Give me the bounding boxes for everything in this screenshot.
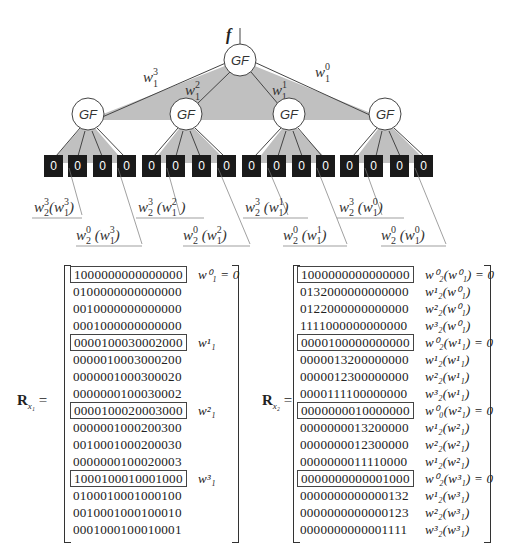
leaf-value: 0 [172, 159, 179, 173]
matrix-row: 0001000000000000 [70, 317, 185, 334]
gf-node-label: GF [177, 107, 196, 122]
matrix-row: 0000013200000000w¹₂(w¹₁) [297, 351, 412, 368]
edge-label-w1-3: w31 [143, 66, 158, 89]
row-bits: 0000000013200000 [297, 419, 412, 436]
matrix-x2-label: Rx₂ = [262, 392, 292, 411]
row-bits: 0000100020003000 [70, 402, 187, 419]
leaf-value: 0 [273, 159, 280, 173]
row-bits: 0000000100030002 [70, 385, 185, 402]
matrix-row: 0000000012300000w²₂(w²₁) [297, 436, 412, 453]
row-bits: 0000100000000000 [297, 334, 414, 351]
row-annotation: w²₂(w¹₁) [425, 368, 469, 385]
matrix-row: 0100000000000000 [70, 283, 185, 300]
row-annotation: w¹₁ [198, 334, 216, 351]
matrix-row: 0010000000000000 [70, 300, 185, 317]
matrix-row: 0000000000000123w²₂(w³₁) [297, 504, 412, 521]
leaf-value: 0 [99, 159, 106, 173]
row-bits: 0000100030002000 [70, 334, 187, 351]
matrix-row: 0000000010000000w⁰₀(w²₁) = 0 [297, 402, 414, 419]
matrix-row: 0000100000000000w⁰₂(w¹₁) = 0 [297, 334, 414, 351]
matrix-x2-subscript: x₂ [273, 401, 280, 411]
leaf-value: 0 [248, 159, 255, 173]
annotation-w2-3-w1-2: w32 (w21 ) [138, 196, 186, 218]
annotation-w2-0-w1-0: w02 (w01) [381, 224, 425, 246]
row-annotation: w²₁ [198, 402, 216, 419]
matrix-row: 0000000100030002 [70, 385, 185, 402]
matrix-row: 1111000000000000w³₂(w⁰₁) [297, 317, 410, 334]
matrix-x1-symbol: R [17, 392, 28, 408]
matrix-row: 0000000000001000w⁰₂(w³₁) = 0 [297, 470, 414, 487]
row-bits: 0000012300000000 [297, 368, 412, 385]
row-annotation: w¹₂(w³₁) [425, 487, 469, 504]
row-bits: 0000000100020003 [70, 453, 185, 470]
matrix-row: 0000000100020003 [70, 453, 185, 470]
row-annotation: w³₂(w¹₁) [425, 385, 469, 402]
row-bits: 0000000000000132 [297, 487, 412, 504]
row-annotation: w³₁ [198, 470, 216, 487]
matrix-row: 0122000000000000w²₂(w⁰₁) [297, 300, 412, 317]
row-bits: 0000013200000000 [297, 351, 412, 368]
row-annotation: w¹₂(w⁰₁) [425, 283, 471, 300]
row-bits: 0000000010000000 [297, 402, 414, 419]
matrix-row: 0010001000100010 [70, 504, 185, 521]
root-gf-label: GF [231, 53, 250, 68]
matrix-row: 0000001000300020 [70, 368, 185, 385]
leaf-value: 0 [396, 159, 403, 173]
matrix-row: 0000000000000132w¹₂(w³₁) [297, 487, 412, 504]
row-bits: 1000100010001000 [70, 470, 187, 487]
leaf-value: 0 [50, 159, 57, 173]
leaf-row: 0 0 0 0 0 0 0 0 0 0 0 0 0 0 0 0 [44, 155, 433, 177]
wavelet-tree-diagram: f w31 w21 w11 w01 GF GF GF GF GF 0 0 0 0… [0, 0, 514, 255]
matrix-row: 0000100030002000w¹₁ [70, 334, 187, 351]
matrix-row: 1000000000000000w⁰₂(w⁰₁) = 0 [297, 266, 414, 283]
matrix-x1-right-bracket [232, 265, 239, 543]
row-bits: 0000000000000123 [297, 504, 412, 521]
row-bits: 0000000000001111 [297, 521, 410, 538]
annotation-w2-0-w1-1: w02 (w11) [283, 224, 326, 246]
row-bits: 0000000000001000 [297, 470, 414, 487]
row-annotation: w²₂(w⁰₁) [425, 300, 471, 317]
leaf-value: 0 [420, 159, 427, 173]
gf-node-label: GF [376, 107, 395, 122]
row-annotation: w²₂(w³₁) [425, 504, 469, 521]
row-bits: 0000000012300000 [297, 436, 412, 453]
matrix-row: 0000012300000000w²₂(w¹₁) [297, 368, 412, 385]
matrix-x2-symbol: R [262, 392, 273, 408]
leaf-value: 0 [223, 159, 230, 173]
gf-node-label: GF [280, 107, 299, 122]
row-bits: 1111000000000000 [297, 317, 410, 334]
leaf-annotations: w32(w31) w02 (w31) w32 (w21 ) w02 (w21) … [32, 196, 446, 246]
leaf-value: 0 [298, 159, 305, 173]
matrix-row: 0000100020003000w²₁ [70, 402, 187, 419]
input-f-label: f [226, 26, 233, 44]
row-bits: 0010001000200030 [70, 436, 185, 453]
matrix-row: 0000010003000200 [70, 351, 185, 368]
row-bits: 0010001000100010 [70, 504, 185, 521]
row-bits: 0000111100000000 [297, 385, 410, 402]
row-bits: 0100000000000000 [70, 283, 185, 300]
gf-node-label: GF [79, 107, 98, 122]
row-bits: 0132000000000000 [297, 283, 412, 300]
leaf-value: 0 [370, 159, 377, 173]
matrix-row: 0000001000200300 [70, 419, 185, 436]
matrix-row: 0010001000200030 [70, 436, 185, 453]
row-bits: 0000001000200300 [70, 419, 185, 436]
annotation-w2-0-w1-3: w02 (w31) [76, 224, 120, 246]
leaf-value: 0 [123, 159, 130, 173]
row-annotation: w⁰₂(w³₁) = 0 [425, 470, 493, 487]
row-bits: 0100010001000100 [70, 487, 185, 504]
matrix-row: 0100010001000100 [70, 487, 185, 504]
row-bits: 0001000000000000 [70, 317, 185, 334]
row-annotation: w¹₂(w²₁) [425, 419, 469, 436]
annotation-w2-3-w1-1: w32 (w11) [245, 196, 288, 218]
row-bits: 0000001000300020 [70, 368, 185, 385]
row-bits: 0000010003000200 [70, 351, 185, 368]
row-annotation: w¹₂(w¹₁) [425, 351, 469, 368]
leaf-value: 0 [322, 159, 329, 173]
row-annotation: w⁰₀(w²₁) = 0 [425, 402, 493, 419]
row-annotation: w¹₂(w²₁) [425, 453, 469, 470]
row-bits: 0000000011110000 [297, 453, 410, 470]
row-bits: 0010000000000000 [70, 300, 185, 317]
matrix-row: 0001000100010001 [70, 521, 185, 538]
annotation-w2-3-w1-3: w32(w31) [34, 196, 74, 218]
